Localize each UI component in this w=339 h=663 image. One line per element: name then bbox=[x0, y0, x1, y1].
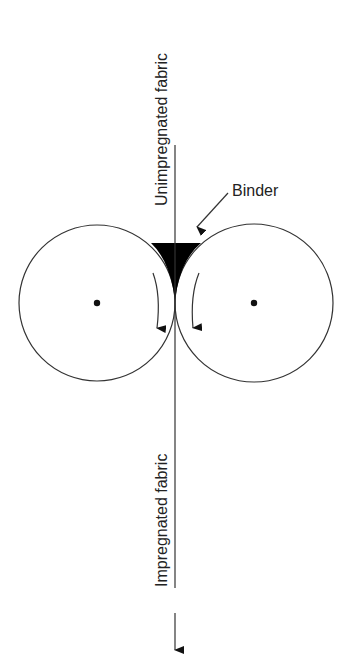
impregnated-fabric-label: Impregnated fabric bbox=[153, 454, 170, 587]
binder-label: Binder bbox=[232, 182, 279, 199]
right-roller-axle-icon bbox=[251, 300, 257, 306]
left-rotation-arrow-icon bbox=[153, 273, 158, 328]
binder-pointer-arrow-icon bbox=[197, 193, 228, 227]
unimpregnated-fabric-label: Unimpregnated fabric bbox=[153, 53, 170, 206]
right-rotation-arrow-icon bbox=[192, 273, 199, 328]
left-roller-axle-icon bbox=[94, 300, 100, 306]
impregnation-diagram: Binder Unimpregnated fabric Impregnated … bbox=[0, 0, 339, 663]
